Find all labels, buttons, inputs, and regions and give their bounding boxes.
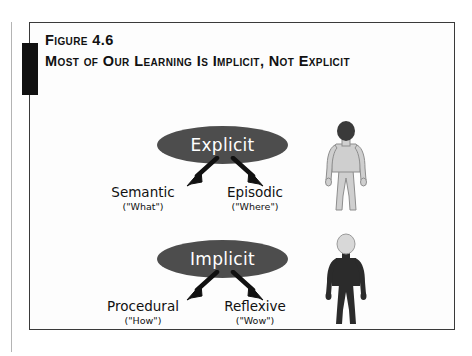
branch-procedural-sublabel: ("How") [83, 314, 203, 327]
branch-reflexive: Reflexive ("Wow") [195, 298, 315, 327]
figure-title-block: Figure 4.6 Most of Our Learning Is Impli… [45, 30, 435, 72]
branch-episodic-sublabel: ("Where") [195, 200, 315, 213]
diagram-group-explicit: Explicit Semantic ("What") Episodic ("Wh… [29, 118, 455, 218]
branch-procedural-label: Procedural [83, 298, 203, 314]
title-accent-tab [22, 43, 38, 95]
branch-reflexive-sublabel: ("Wow") [195, 314, 315, 327]
human-figure-dark-icon [319, 232, 373, 328]
node-implicit-label: Implicit [190, 249, 255, 269]
node-explicit-label: Explicit [190, 135, 254, 155]
branch-semantic: Semantic ("What") [83, 184, 203, 213]
branch-procedural: Procedural ("How") [83, 298, 203, 327]
branch-semantic-sublabel: ("What") [83, 200, 203, 213]
human-figure-light-icon [319, 118, 373, 214]
branch-episodic: Episodic ("Where") [195, 184, 315, 213]
branch-episodic-label: Episodic [195, 184, 315, 200]
figure-number: Figure 4.6 [45, 30, 435, 50]
branch-semantic-label: Semantic [83, 184, 203, 200]
branch-reflexive-label: Reflexive [195, 298, 315, 314]
figure-title: Most of Our Learning Is Implicit, Not Ex… [45, 51, 435, 72]
diagram-group-implicit: Implicit Procedural ("How") Reflexive ("… [29, 232, 455, 332]
page-gutter-rule [11, 22, 12, 352]
